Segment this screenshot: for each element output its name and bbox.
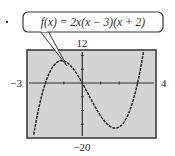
bullet-marker <box>6 21 8 23</box>
ymax-label: 12 <box>77 37 88 49</box>
graph-screen <box>27 50 156 138</box>
function-label: f(x) = 2x(x − 3)(x + 2) <box>41 16 146 29</box>
function-graph-figure: f(x) = 2x(x − 3)(x + 2) 12 −20 −3 4 <box>0 0 175 156</box>
xmin-label: −3 <box>10 77 22 89</box>
ymin-label: −20 <box>73 141 91 153</box>
xmax-label: 4 <box>161 77 167 89</box>
